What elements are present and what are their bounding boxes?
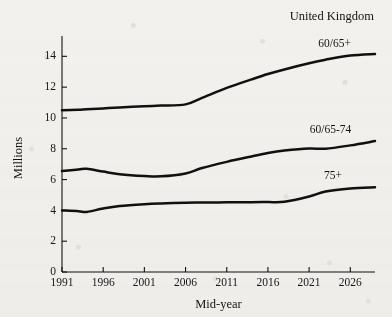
x-tick-label: 2001 xyxy=(133,276,156,288)
chart-title-group: United Kingdom xyxy=(290,9,375,23)
y-axis: 02468101214 Millions xyxy=(11,36,67,277)
x-axis: 19911996200120062011201620212026 Mid-yea… xyxy=(51,267,376,311)
x-tick-group: 19911996200120062011201620212026 xyxy=(51,267,363,288)
line-chart: United Kingdom 02468101214 Millions 1991… xyxy=(0,0,392,317)
series-line-60-65- xyxy=(62,54,375,110)
series-line-75- xyxy=(62,187,375,212)
y-tick-group: 02468101214 xyxy=(45,49,68,277)
x-tick-label: 2016 xyxy=(256,276,279,288)
y-tick-label: 14 xyxy=(45,49,57,61)
series-label: 60/65+ xyxy=(318,37,351,49)
x-tick-label: 2021 xyxy=(298,276,321,288)
series-label: 60/65-74 xyxy=(310,123,352,135)
y-tick-label: 4 xyxy=(50,204,56,216)
x-axis-label: Mid-year xyxy=(195,297,242,311)
y-axis-label: Millions xyxy=(11,137,25,180)
series-label: 75+ xyxy=(324,169,342,181)
x-tick-label: 1996 xyxy=(92,276,115,288)
y-tick-label: 12 xyxy=(45,80,57,92)
chart-container: United Kingdom 02468101214 Millions 1991… xyxy=(0,0,392,317)
x-tick-label: 2006 xyxy=(174,276,197,288)
x-tick-label: 2026 xyxy=(339,276,362,288)
x-tick-label: 2011 xyxy=(215,276,238,288)
y-tick-label: 8 xyxy=(50,142,56,154)
y-tick-label: 10 xyxy=(45,111,57,123)
x-tick-label: 1991 xyxy=(51,276,74,288)
y-tick-label: 2 xyxy=(50,234,56,246)
chart-title: United Kingdom xyxy=(290,9,375,23)
y-tick-label: 6 xyxy=(50,173,56,185)
